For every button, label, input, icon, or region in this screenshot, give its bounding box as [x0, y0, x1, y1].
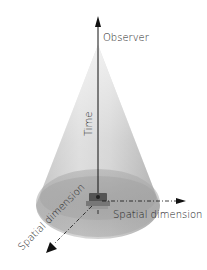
time-label: Time — [83, 112, 94, 136]
light-cone-diagram: Observer Time Spatial dimension Spatial … — [0, 0, 207, 270]
arrow-right-icon — [176, 198, 186, 204]
arrow-down-left-icon — [46, 242, 57, 253]
spatial-x-label: Spatial dimension — [113, 209, 202, 220]
arrow-up-icon — [95, 16, 101, 27]
observer-label: Observer — [103, 32, 150, 43]
